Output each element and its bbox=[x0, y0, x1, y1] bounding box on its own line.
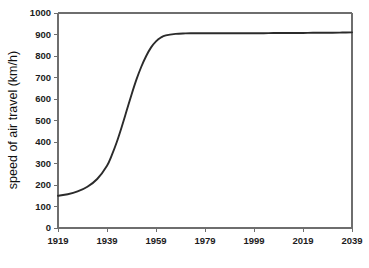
x-tick-label: 1959 bbox=[145, 235, 166, 246]
y-axis-title: speed of air travel (km/h) bbox=[6, 51, 20, 189]
x-tick-label: 2039 bbox=[341, 235, 362, 246]
x-tick-label: 1919 bbox=[47, 235, 68, 246]
y-tick-label: 1000 bbox=[30, 7, 51, 18]
x-tick-label: 1999 bbox=[243, 235, 264, 246]
x-tick-label: 1939 bbox=[96, 235, 117, 246]
y-tick-label: 100 bbox=[35, 201, 51, 212]
y-tick-label: 600 bbox=[35, 93, 51, 104]
y-axis-title-text: speed of air travel (km/h) bbox=[6, 51, 20, 189]
x-tick-label: 2019 bbox=[292, 235, 313, 246]
chart-container: speed of air travel (km/h) 0100200300400… bbox=[0, 0, 369, 268]
x-axis-ticks: 1919193919591979199920192039 bbox=[47, 228, 362, 246]
x-tick-label: 1979 bbox=[194, 235, 215, 246]
series-group bbox=[58, 32, 352, 195]
y-tick-label: 300 bbox=[35, 158, 51, 169]
y-tick-label: 500 bbox=[35, 115, 51, 126]
data-series-line bbox=[58, 32, 352, 195]
y-tick-label: 400 bbox=[35, 136, 51, 147]
y-tick-label: 0 bbox=[46, 222, 51, 233]
line-chart: speed of air travel (km/h) 0100200300400… bbox=[0, 0, 369, 268]
y-tick-label: 200 bbox=[35, 179, 51, 190]
axis-frame bbox=[58, 13, 352, 228]
y-tick-label: 800 bbox=[35, 50, 51, 61]
y-tick-label: 700 bbox=[35, 72, 51, 83]
y-axis-ticks: 01002003004005006007008009001000 bbox=[30, 7, 58, 233]
y-tick-label: 900 bbox=[35, 29, 51, 40]
